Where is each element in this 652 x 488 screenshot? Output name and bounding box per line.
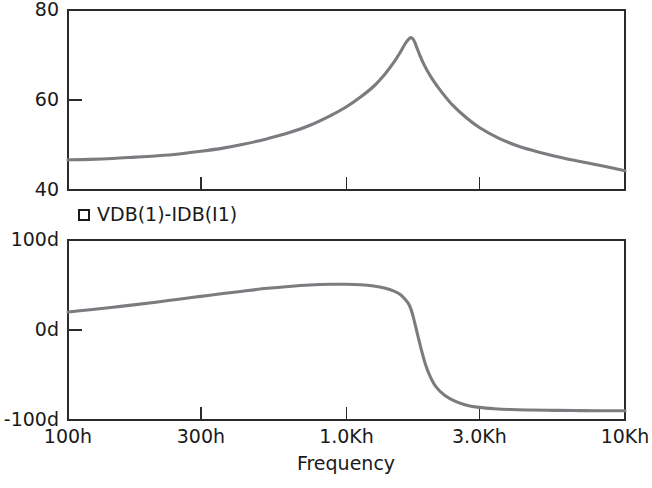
spice-plot-window: 406080 VDB(1)-IDB(I1) 100h300h1.0Kh3.0Kh…	[0, 0, 652, 488]
x-tick-label: 10Kh	[601, 425, 650, 447]
data-trace	[68, 284, 625, 411]
magnitude-plot: 406080	[35, 0, 625, 200]
x-axis-title: Frequency	[297, 452, 395, 474]
phase-plot-axes	[68, 240, 625, 420]
x-tick-label: 3.0Kh	[452, 425, 507, 447]
magnitude-plot-ticks	[68, 100, 479, 190]
y-tick-label: -100d	[4, 408, 59, 430]
phase-plot-traces	[68, 284, 625, 411]
legend-label: VDB(1)-IDB(I1)	[97, 203, 237, 225]
plot-frame	[68, 10, 625, 190]
probe-plot-canvas: 406080 VDB(1)-IDB(I1) 100h300h1.0Kh3.0Kh…	[0, 0, 652, 488]
plot-legend[interactable]: VDB(1)-IDB(I1)	[79, 203, 237, 225]
x-tick-label: 300h	[177, 425, 225, 447]
y-tick-label: 60	[35, 88, 59, 110]
phase-plot-tick-labels: 100h300h1.0Kh3.0Kh10Kh-100d0d100d	[4, 228, 650, 448]
y-tick-label: 0d	[35, 318, 59, 340]
data-trace	[68, 37, 625, 170]
magnitude-plot-traces	[68, 37, 625, 170]
y-tick-label: 40	[35, 178, 59, 200]
y-tick-label: 100d	[11, 228, 59, 250]
phase-plot-ticks	[68, 330, 479, 420]
plot-frame	[68, 240, 625, 420]
phase-plot: 100h300h1.0Kh3.0Kh10Kh-100d0d100d	[4, 228, 650, 448]
legend-marker-icon	[79, 210, 89, 220]
magnitude-plot-tick-labels: 406080	[35, 0, 59, 200]
y-tick-label: 80	[35, 0, 59, 20]
x-tick-label: 1.0Kh	[319, 425, 374, 447]
magnitude-plot-axes	[68, 10, 625, 190]
